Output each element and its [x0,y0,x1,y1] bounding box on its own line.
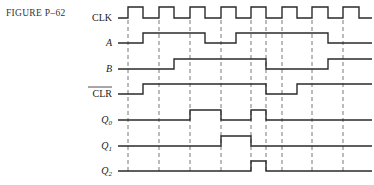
waveform-q0 [118,110,372,120]
waveform-q1 [118,136,372,146]
timing-diagram: CLKABCLRQ0Q1Q2 [0,0,374,185]
signal-waveforms [118,7,372,171]
waveform-q2 [118,161,372,171]
signal-label-clr: CLR [93,88,113,99]
waveform-b [118,59,372,69]
signal-label-q2: Q2 [101,165,112,178]
waveform-clr [118,84,372,94]
signal-label-q0: Q0 [101,114,112,127]
signal-label-b: B [106,63,112,74]
signal-label-q1: Q1 [101,140,112,153]
signal-label-a: A [105,37,113,48]
waveform-clk [118,7,372,18]
signal-label-clk: CLK [92,12,113,23]
signal-labels: CLKABCLRQ0Q1Q2 [88,12,113,178]
waveform-a [118,33,372,43]
